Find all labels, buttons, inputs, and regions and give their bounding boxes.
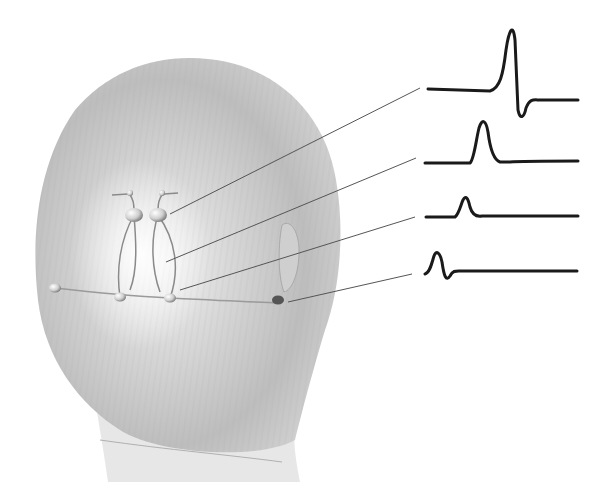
electrode-lower-right <box>164 294 176 303</box>
waveform-trace-3 <box>426 198 578 217</box>
waveform-trace-4 <box>425 253 577 279</box>
figure-canvas <box>0 0 612 482</box>
electrode-lower-left <box>114 293 126 302</box>
electrode-ear-reference <box>272 296 284 305</box>
highlight <box>70 160 210 350</box>
electrode-left-reference <box>49 284 61 293</box>
waveform-trace-2 <box>425 122 578 163</box>
evoked-potential-figure <box>0 0 612 482</box>
waveform-trace-1 <box>428 30 578 117</box>
